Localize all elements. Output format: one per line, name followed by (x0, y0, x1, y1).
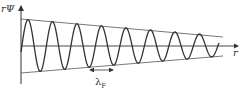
damped-wave-diagram (0, 0, 244, 89)
lambda-subscript: F (101, 82, 106, 89)
lower-envelope (21, 56, 223, 73)
x-axis-label: r (233, 47, 238, 58)
wavelength-label: λF (95, 76, 106, 89)
y-axis-label: rΨ (1, 3, 15, 14)
wave-curve (21, 20, 219, 72)
